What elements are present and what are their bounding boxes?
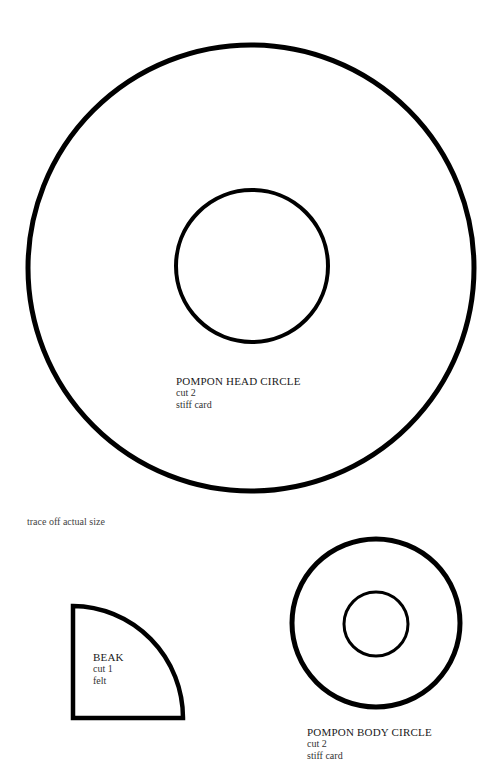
head-title: POMPON HEAD CIRCLE [176, 375, 301, 387]
beak-cut: cut 1 [93, 663, 124, 675]
beak-quarter-circle [73, 606, 183, 718]
head-inner-circle [176, 190, 328, 342]
body-inner-circle [344, 592, 408, 656]
trace-note: trace off actual size [27, 516, 105, 527]
body-label: POMPON BODY CIRCLE cut 2 stiff card [307, 726, 432, 762]
head-label: POMPON HEAD CIRCLE cut 2 stiff card [176, 375, 301, 411]
beak-title: BEAK [93, 651, 124, 663]
head-cut: cut 2 [176, 387, 301, 399]
body-material: stiff card [307, 750, 432, 762]
beak-material: felt [93, 675, 124, 687]
head-outer-circle [28, 45, 474, 491]
body-outer-circle [292, 539, 460, 707]
head-material: stiff card [176, 399, 301, 411]
body-cut: cut 2 [307, 738, 432, 750]
body-title: POMPON BODY CIRCLE [307, 726, 432, 738]
beak-label: BEAK cut 1 felt [93, 651, 124, 687]
